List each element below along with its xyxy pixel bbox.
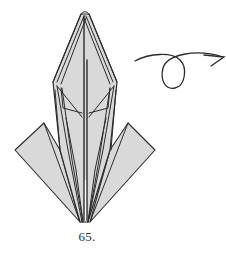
step-number-label: 65. — [70, 229, 104, 245]
turn-over-arrow-icon — [135, 53, 224, 88]
diagram-canvas — [0, 0, 226, 257]
origami-model — [15, 12, 155, 223]
arrow-loop-path — [135, 53, 223, 88]
arrowhead-icon — [204, 55, 224, 66]
